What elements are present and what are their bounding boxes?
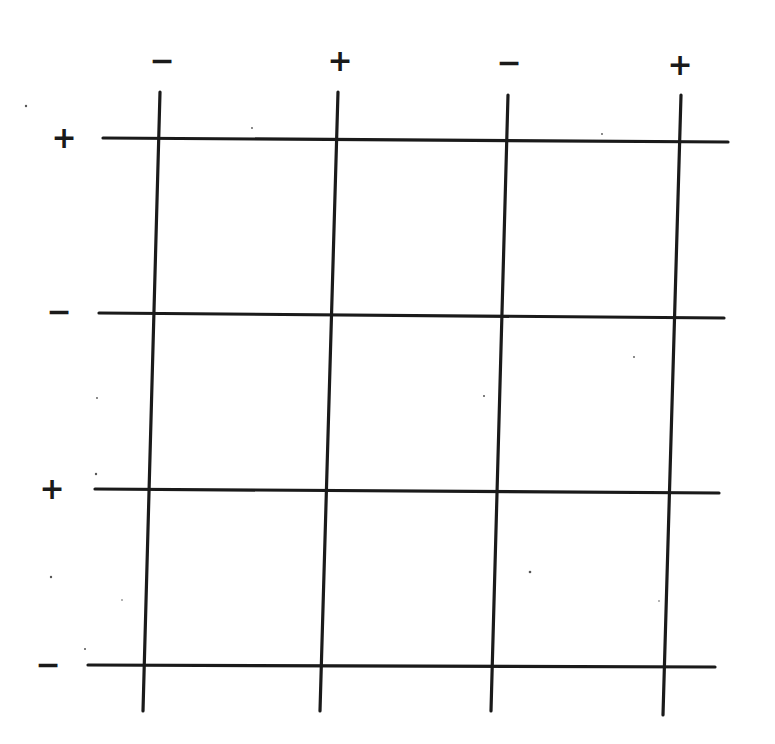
vertical-line-2 [320,92,338,711]
row-label-4: − [35,647,60,682]
column-labels: − + − + [149,43,692,82]
horizontal-line-2 [99,313,724,318]
horizontal-line-1 [103,138,728,142]
horizontal-line-4 [88,665,715,667]
sign-grid-diagram: − + − + + − + − [0,0,775,744]
row-labels: + − + − [35,120,76,682]
vertical-line-4 [663,95,681,715]
column-label-1: − [149,43,174,78]
row-label-1: + [51,120,76,155]
column-label-2: + [327,43,352,78]
column-label-3: − [496,45,521,80]
scan-specks [25,105,660,650]
vertical-line-1 [143,92,160,711]
row-label-2: − [46,294,71,329]
vertical-lines [143,92,681,715]
row-label-3: + [39,471,64,506]
column-label-4: + [667,47,692,82]
horizontal-line-3 [95,489,719,493]
horizontal-lines [88,138,728,667]
vertical-line-3 [491,95,508,711]
